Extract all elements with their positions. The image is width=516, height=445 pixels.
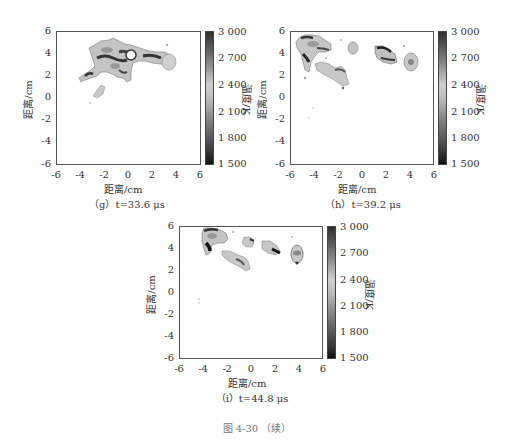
x-tick-i-1: -4 — [193, 364, 213, 374]
x-tick-i-0: -6 — [169, 364, 189, 374]
x-tick-i-4: 2 — [265, 364, 285, 374]
y-tick-i-5: -4 — [156, 331, 174, 341]
cbar-tick-h-0: 3 000 — [451, 27, 480, 37]
y-tick-h-2: 2 — [267, 70, 285, 80]
y-tick-g-1: 4 — [33, 48, 51, 58]
cbar-tick-i-4: 1 800 — [340, 327, 369, 337]
cbar-tick-i-0: 3 000 — [340, 222, 369, 232]
x-tick-h-2: -2 — [328, 170, 348, 180]
x-tick-i-6: 6 — [313, 364, 333, 374]
x-tick-h-3: 0 — [352, 170, 372, 180]
y-tick-g-5: -4 — [33, 136, 51, 146]
y-tick-h-5: -4 — [267, 136, 285, 146]
x-tick-g-6: 6 — [190, 170, 210, 180]
y-tick-i-2: 2 — [156, 265, 174, 275]
colorbar-i — [327, 226, 336, 359]
x-tick-g-1: -4 — [70, 170, 90, 180]
y-tick-h-0: 6 — [267, 26, 285, 36]
temperature-field-i — [180, 227, 324, 360]
cbar-tick-i-1: 2 700 — [340, 248, 369, 258]
temperature-field-h — [291, 32, 435, 166]
temperature-field-g — [57, 32, 202, 166]
y-tick-h-3: 0 — [267, 92, 285, 102]
x-axis-label-g: 距离/cm — [104, 181, 142, 196]
y-axis-label-h: 距离/cm — [254, 80, 269, 118]
y-tick-g-2: 2 — [33, 70, 51, 80]
x-tick-h-5: 4 — [400, 170, 420, 180]
y-tick-g-6: -6 — [33, 159, 51, 169]
y-axis-label-g: 距离/cm — [20, 80, 35, 118]
x-tick-g-2: -2 — [94, 170, 114, 180]
y-tick-g-3: 0 — [33, 92, 51, 102]
caption-g: （g）t=33.6 μs — [82, 196, 172, 211]
colorbar-label-g: 温度/K — [240, 84, 255, 115]
cbar-tick-g-4: 1 800 — [218, 133, 247, 143]
x-tick-g-4: 2 — [142, 170, 162, 180]
y-tick-h-4: -2 — [267, 114, 285, 124]
y-tick-i-4: -2 — [156, 309, 174, 319]
y-tick-i-0: 6 — [156, 221, 174, 231]
figure-caption: 图 4-30 （续） — [212, 420, 302, 435]
x-tick-h-1: -4 — [304, 170, 324, 180]
x-tick-g-0: -6 — [46, 170, 66, 180]
x-tick-h-4: 2 — [376, 170, 396, 180]
y-tick-g-0: 6 — [33, 26, 51, 36]
x-tick-i-3: 0 — [241, 364, 261, 374]
x-tick-h-0: -6 — [280, 170, 300, 180]
colorbar-label-i: 温度/K — [363, 279, 378, 310]
x-tick-g-5: 4 — [166, 170, 186, 180]
x-axis-label-i: 距离/cm — [228, 375, 266, 390]
x-axis-label-h: 距离/cm — [338, 181, 376, 196]
cbar-tick-g-0: 3 000 — [218, 27, 247, 37]
cbar-tick-g-5: 1 500 — [218, 159, 247, 169]
cbar-tick-h-4: 1 800 — [451, 133, 480, 143]
y-tick-g-4: -2 — [33, 114, 51, 124]
y-tick-i-6: -6 — [156, 353, 174, 363]
plot-area-i — [179, 226, 323, 359]
x-tick-i-5: 4 — [289, 364, 309, 374]
y-tick-i-3: 0 — [156, 287, 174, 297]
y-tick-h-1: 4 — [267, 48, 285, 58]
cbar-tick-i-5: 1 500 — [340, 353, 369, 363]
plot-area-h — [290, 31, 434, 165]
caption-h: （h）t=39.2 μs — [318, 196, 408, 211]
plot-area-g — [56, 31, 201, 165]
y-tick-i-1: 4 — [156, 243, 174, 253]
colorbar-h — [438, 31, 447, 165]
cbar-tick-g-1: 2 700 — [218, 53, 247, 63]
x-tick-g-3: 0 — [118, 170, 138, 180]
y-tick-h-6: -6 — [267, 159, 285, 169]
x-tick-i-2: -2 — [217, 364, 237, 374]
colorbar-g — [205, 31, 214, 165]
y-axis-label-i: 距离/cm — [143, 275, 158, 313]
cbar-tick-h-5: 1 500 — [451, 159, 480, 169]
colorbar-label-h: 温度/K — [474, 84, 489, 115]
cbar-tick-h-1: 2 700 — [451, 53, 480, 63]
x-tick-h-6: 6 — [424, 170, 444, 180]
caption-i: （i）t=44.8 μs — [207, 390, 297, 405]
